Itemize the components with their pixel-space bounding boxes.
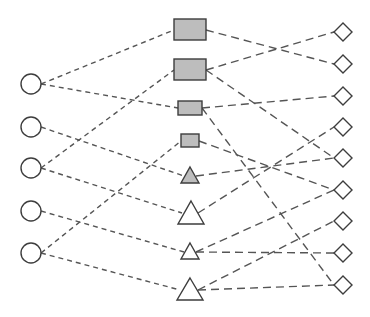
circle-node-C3: [21, 158, 41, 178]
triangle-node-T3: [181, 243, 199, 259]
left-node-column: [21, 74, 41, 263]
diamond-node-D5: [334, 149, 352, 167]
tripartite-graph-diagram: [0, 0, 370, 317]
edge-C1-R1: [41, 30, 174, 84]
triangle-node-T1: [181, 167, 199, 183]
rect-node-R2: [174, 59, 206, 80]
middle-node-column: [174, 19, 206, 300]
rect-node-R4: [181, 134, 199, 147]
rect-node-R3: [178, 101, 202, 115]
edge-R3-D9: [202, 108, 334, 285]
edge-T3-D8: [196, 252, 334, 253]
diamond-node-D4: [334, 118, 352, 136]
edge-T2-D4: [198, 127, 334, 213]
diamond-node-D3: [334, 87, 352, 105]
right-node-column: [334, 23, 352, 294]
circle-node-C1: [21, 74, 41, 94]
edge-R4-D6: [199, 141, 334, 190]
rect-node-R1: [174, 19, 206, 40]
edge-C5-T4: [41, 253, 180, 290]
diamond-node-D7: [334, 212, 352, 230]
diamond-node-D9: [334, 276, 352, 294]
diamond-node-D2: [334, 55, 352, 73]
edge-C1-R3: [41, 84, 178, 108]
edge-C3-R2: [41, 70, 174, 168]
edge-T4-D7: [198, 221, 334, 290]
edge-C5-R4: [41, 141, 181, 253]
edge-R3-D3: [202, 96, 334, 108]
circle-node-C4: [21, 201, 41, 221]
left-edge-group: [41, 30, 184, 290]
diamond-node-D8: [334, 244, 352, 262]
edge-C4-T3: [41, 211, 184, 252]
edge-R2-D1: [206, 32, 334, 70]
diamond-node-D1: [334, 23, 352, 41]
edge-T1-D5: [196, 158, 334, 176]
edge-R2-D5: [206, 70, 334, 158]
edge-T4-D9: [198, 285, 334, 290]
edge-R1-D2: [206, 30, 334, 64]
circle-node-C5: [21, 243, 41, 263]
edge-C3-T2: [41, 168, 182, 213]
circle-node-C2: [21, 117, 41, 137]
diamond-node-D6: [334, 181, 352, 199]
edge-T3-D6: [196, 190, 334, 252]
right-edge-group: [196, 30, 334, 290]
